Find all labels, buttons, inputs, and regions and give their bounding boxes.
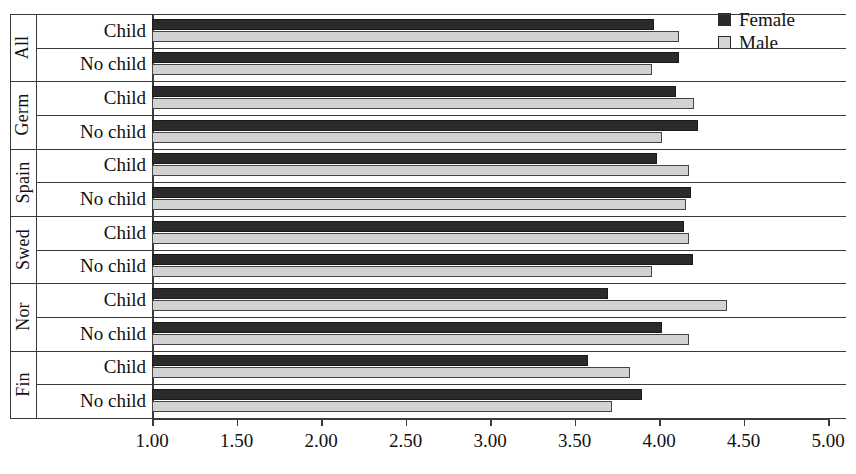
bars-plot-area: [152, 14, 846, 418]
bar-female-spain-no-child: [152, 187, 691, 198]
x-tick-5.00: [828, 418, 830, 426]
row-label-fin-child: Child: [37, 351, 152, 385]
x-tick-2.50: [406, 418, 408, 426]
x-tick-label-5.00: 5.00: [793, 430, 856, 452]
group-label-swed: Swed: [10, 216, 36, 283]
bar-female-fin-child: [152, 355, 588, 366]
bar-male-fin-child: [152, 367, 630, 378]
x-tick-2.00: [321, 418, 323, 426]
x-tick-label-4.50: 4.50: [709, 430, 779, 452]
row-label-nor-child: Child: [37, 283, 152, 317]
row-label-all-child: Child: [37, 14, 152, 48]
x-tick-4.00: [659, 418, 661, 426]
row-label-germ-child: Child: [37, 81, 152, 115]
x-tick-label-1.00: 1.00: [117, 430, 187, 452]
bar-male-fin-no-child: [152, 401, 612, 412]
x-tick-label-2.50: 2.50: [371, 430, 441, 452]
bar-male-all-no-child: [152, 64, 652, 75]
bar-female-germ-no-child: [152, 120, 698, 131]
bar-female-swed-no-child: [152, 254, 693, 265]
bar-male-spain-child: [152, 165, 689, 176]
x-tick-3.50: [575, 418, 577, 426]
x-tick-1.50: [237, 418, 239, 426]
category-axis-labels: All Germ Spain Swed Nor Fin Child No chi…: [10, 14, 152, 418]
row-label-fin-nochild: No child: [37, 384, 152, 418]
row-label-swed-child: Child: [37, 216, 152, 250]
group-label-fin: Fin: [10, 351, 36, 418]
x-tick-label-3.00: 3.00: [455, 430, 525, 452]
bar-male-germ-no-child: [152, 132, 662, 143]
group-label-all: All: [10, 14, 36, 81]
row-label-nor-nochild: No child: [37, 317, 152, 351]
x-tick-1.00: [152, 418, 154, 426]
bar-male-spain-no-child: [152, 199, 686, 210]
group-label-nor: Nor: [10, 283, 36, 350]
bar-male-all-child: [152, 31, 679, 42]
bar-male-swed-no-child: [152, 266, 652, 277]
bar-female-nor-child: [152, 288, 608, 299]
group-label-spain: Spain: [10, 149, 36, 216]
bar-female-germ-child: [152, 86, 676, 97]
bar-male-germ-child: [152, 98, 694, 109]
group-label-germ: Germ: [10, 81, 36, 148]
bar-male-swed-child: [152, 233, 689, 244]
row-label-spain-child: Child: [37, 149, 152, 183]
bar-male-nor-child: [152, 300, 727, 311]
x-tick-label-1.50: 1.50: [202, 430, 272, 452]
bar-female-all-no-child: [152, 52, 679, 63]
bar-female-swed-child: [152, 221, 684, 232]
row-label-spain-nochild: No child: [37, 182, 152, 216]
bar-male-nor-no-child: [152, 334, 689, 345]
bar-female-all-child: [152, 19, 654, 30]
bar-chart-figure: Female Male All Germ Spain Swed: [0, 0, 856, 474]
x-tick-4.50: [744, 418, 746, 426]
x-tick-label-3.50: 3.50: [540, 430, 610, 452]
x-tick-label-2.00: 2.00: [286, 430, 356, 452]
x-tick-label-4.00: 4.00: [624, 430, 694, 452]
bar-female-spain-child: [152, 153, 657, 164]
bar-female-fin-no-child: [152, 389, 642, 400]
chart-plot-table: All Germ Spain Swed Nor Fin Child No chi…: [10, 14, 846, 418]
x-tick-3.00: [490, 418, 492, 426]
row-label-swed-nochild: No child: [37, 250, 152, 284]
bar-female-nor-no-child: [152, 322, 662, 333]
row-label-all-nochild: No child: [37, 48, 152, 82]
row-label-germ-nochild: No child: [37, 115, 152, 149]
